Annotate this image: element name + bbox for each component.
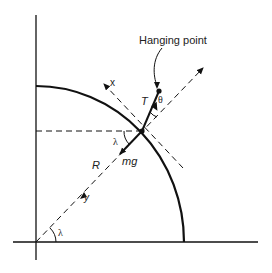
weight-label: mg xyxy=(122,155,138,167)
theta-angle-arc xyxy=(150,112,157,117)
radius-label: R xyxy=(92,159,100,171)
weight-vector xyxy=(120,131,142,154)
pendulum-on-earth-diagram: Hanging point x y T θ λ λ mg R xyxy=(0,0,272,273)
hanging-point-label: Hanging point xyxy=(139,34,207,46)
hanging-point-dot xyxy=(156,88,161,93)
mass-point xyxy=(139,128,144,133)
x-axis-label: x xyxy=(110,77,115,88)
radius-dashed-line xyxy=(36,68,203,242)
theta-label: θ xyxy=(158,94,163,105)
lambda-label-top: λ xyxy=(113,136,118,147)
tension-label: T xyxy=(141,95,149,107)
lambda-angle-arc-top xyxy=(124,131,129,144)
hanging-point-pointer xyxy=(154,48,162,86)
lambda-angle-arc-bottom xyxy=(50,228,56,242)
lambda-label-bottom: λ xyxy=(58,227,63,238)
y-axis-label: y xyxy=(83,192,90,203)
pointer-arrow-icon xyxy=(154,82,160,89)
